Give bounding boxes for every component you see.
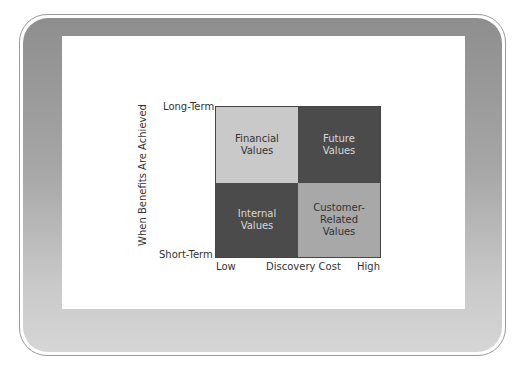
y-axis-bottom-label: Short-Term [159, 249, 213, 260]
y-axis-title: When Benefits Are Achieved [137, 104, 148, 246]
quadrant-customer-related-values: Customer- Related Values [298, 183, 380, 257]
quadrant-label: Values [235, 145, 279, 157]
x-axis-left-label: Low [216, 261, 236, 272]
y-axis-top-label: Long-Term [163, 101, 214, 112]
quadrant-label: Values [323, 145, 356, 157]
quadrant-label: Internal [238, 208, 277, 220]
x-axis-right-label: High [357, 261, 380, 272]
value-matrix: Financial Values Future Values Internal … [215, 106, 381, 258]
quadrant-label: Values [313, 226, 365, 238]
quadrant-label: Related [313, 214, 365, 226]
quadrant-label: Future [323, 133, 356, 145]
quadrant-financial-values: Financial Values [216, 107, 298, 183]
quadrant-label: Financial [235, 133, 279, 145]
x-axis-title: Discovery Cost [266, 261, 341, 272]
quadrant-label: Values [238, 220, 277, 232]
quadrant-internal-values: Internal Values [216, 183, 298, 257]
quadrant-label: Customer- [313, 202, 365, 214]
quadrant-future-values: Future Values [298, 107, 380, 183]
